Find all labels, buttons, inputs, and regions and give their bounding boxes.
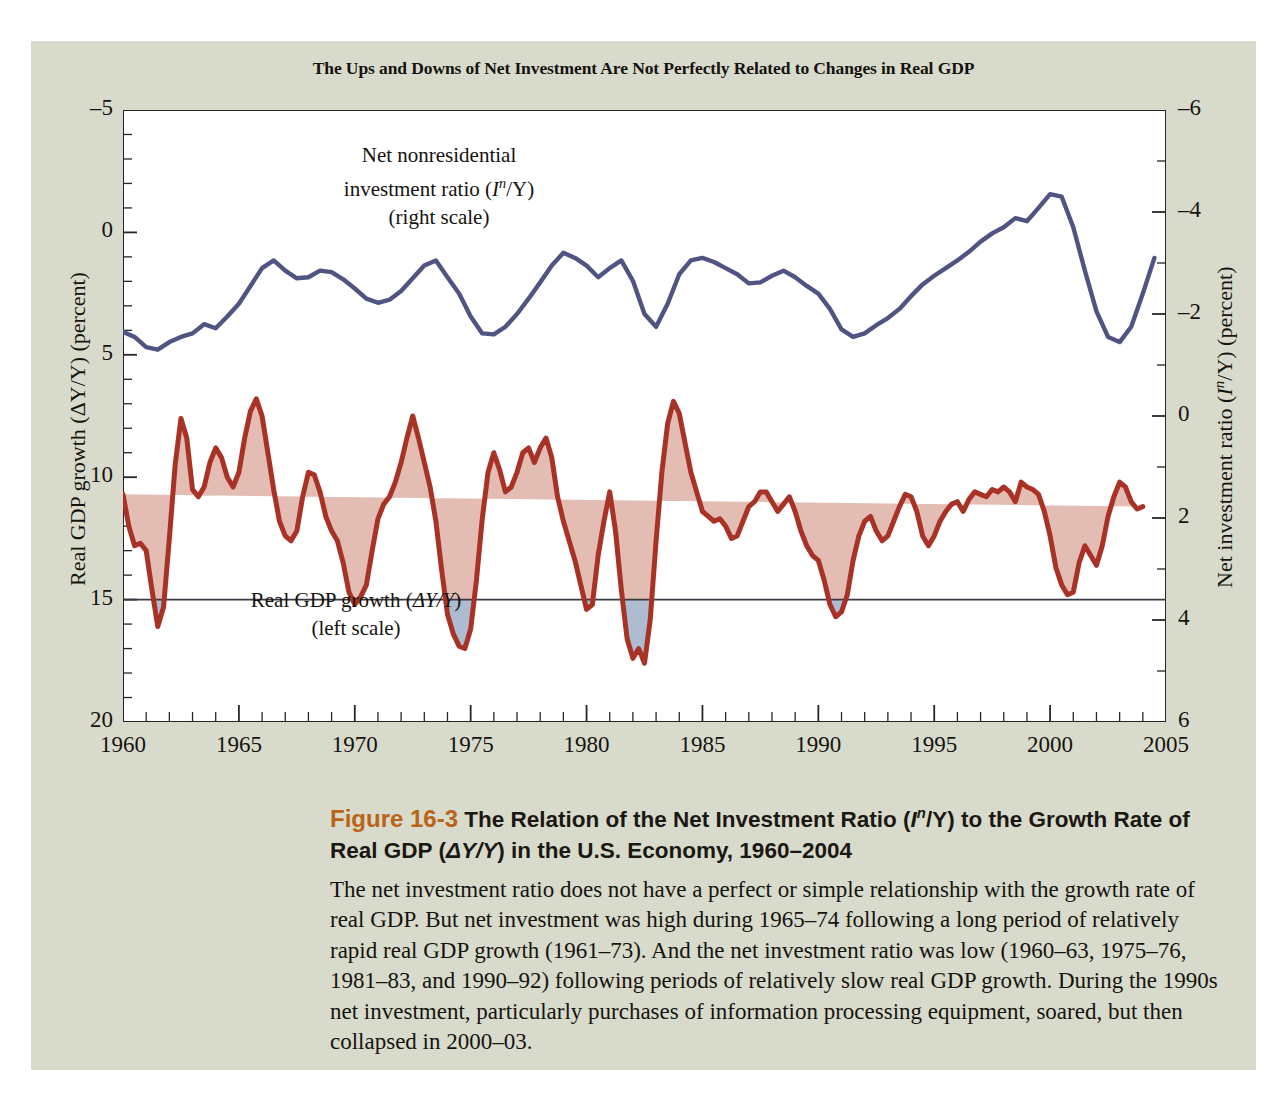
figure-panel: The Ups and Downs of Net Investment Are … — [31, 41, 1256, 1070]
series-net-investment-ratio — [123, 194, 1154, 350]
x-tick-2000: 2000 — [1010, 732, 1090, 758]
x-tick-1985: 1985 — [662, 732, 742, 758]
chart-title: The Ups and Downs of Net Investment Are … — [31, 58, 1256, 79]
left-tick--5: 20 — [57, 707, 113, 733]
left-tick-0: 15 — [57, 585, 113, 611]
figure-number: Figure 16-3 — [330, 805, 458, 832]
right-tick--4: 4 — [1178, 605, 1234, 631]
x-tick-1975: 1975 — [431, 732, 511, 758]
x-tick-1980: 1980 — [547, 732, 627, 758]
x-tick-1970: 1970 — [315, 732, 395, 758]
x-tick-1995: 1995 — [894, 732, 974, 758]
left-tick-20: –5 — [57, 95, 113, 121]
x-tick-1960: 1960 — [83, 732, 163, 758]
caption-headline: Figure 16-3 The Relation of the Net Inve… — [330, 798, 1230, 866]
left-tick-15: 0 — [57, 217, 113, 243]
x-tick-1990: 1990 — [778, 732, 858, 758]
annotation-real-gdp: Real GDP growth (ΔY/Y)(left scale) — [191, 586, 521, 642]
left-axis-title: Real GDP growth (ΔY/Y) (percent) — [65, 272, 91, 586]
right-tick-4: –4 — [1178, 197, 1234, 223]
right-tick-6: –6 — [1178, 95, 1234, 121]
caption-body: The net investment ratio does not have a… — [330, 875, 1230, 1058]
annotation-net-investment: Net nonresidentialinvestment ratio (In/Y… — [289, 141, 589, 231]
right-tick--6: 6 — [1178, 707, 1234, 733]
x-tick-2005: 2005 — [1126, 732, 1206, 758]
figure-caption: Figure 16-3 The Relation of the Net Inve… — [330, 798, 1230, 1058]
page-top-margin — [0, 0, 1287, 18]
right-axis-title: Net investment ratio (In/Y) (percent) — [1211, 267, 1238, 588]
x-tick-1965: 1965 — [199, 732, 279, 758]
